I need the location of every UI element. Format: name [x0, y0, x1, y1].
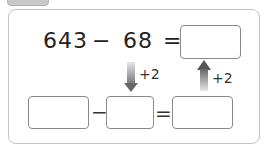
- left-adjust-label: +2: [139, 66, 160, 82]
- arrow-down-icon: [127, 62, 135, 84]
- arrow-down-head-icon: [124, 83, 138, 92]
- equals-sign-bottom: =: [155, 103, 172, 123]
- arrow-up-icon: [200, 69, 208, 91]
- operand-1: 643: [43, 26, 88, 56]
- right-adjust-label: +2: [212, 70, 233, 86]
- operand-2: 68: [123, 26, 153, 56]
- minus-sign: −: [92, 26, 111, 56]
- answer-box-top[interactable]: [180, 25, 241, 59]
- answer-box-1[interactable]: [28, 96, 89, 129]
- header-tab: [7, 0, 49, 6]
- answer-box-2[interactable]: [106, 96, 154, 129]
- answer-box-3[interactable]: [172, 96, 233, 129]
